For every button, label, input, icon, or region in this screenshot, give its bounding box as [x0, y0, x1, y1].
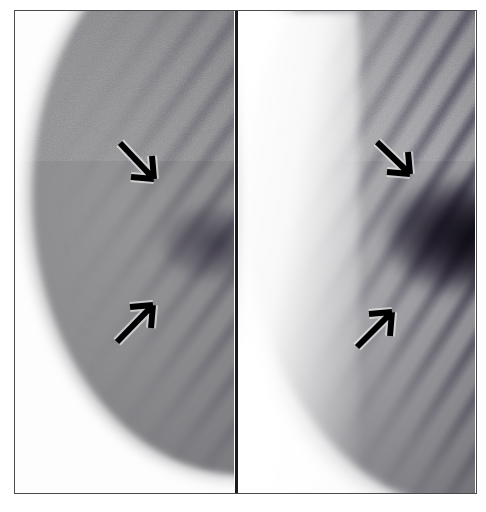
figure-frame	[14, 10, 477, 494]
panel-right-edge-highlight	[239, 11, 359, 493]
panel-divider	[235, 11, 238, 493]
figure-root	[0, 0, 486, 512]
image-panel-left[interactable]	[15, 11, 234, 493]
figure-caption	[14, 497, 477, 509]
image-panel-right[interactable]	[239, 11, 475, 493]
